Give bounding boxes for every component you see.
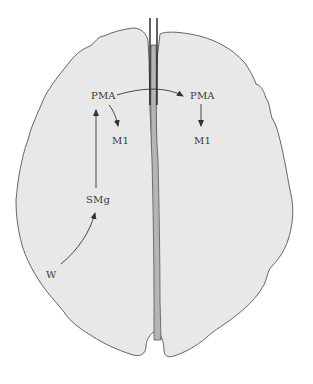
label-m1-left: M1 xyxy=(112,135,129,146)
label-pma-right: PMA xyxy=(190,90,215,101)
right-hemisphere xyxy=(156,32,293,357)
label-smg: SMg xyxy=(86,194,110,205)
label-w: W xyxy=(46,269,57,280)
label-pma-left: PMA xyxy=(91,90,116,101)
left-hemisphere xyxy=(16,28,157,356)
label-m1-right: M1 xyxy=(194,135,211,146)
brain-diagram: PMA M1 PMA M1 SMg W xyxy=(0,0,313,384)
